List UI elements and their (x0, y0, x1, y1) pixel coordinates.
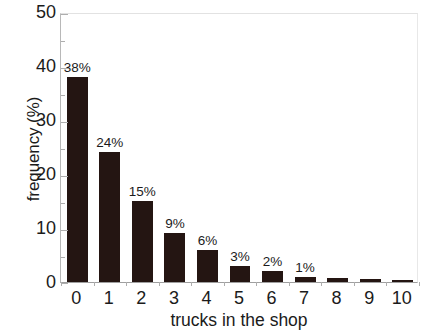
y-minor-tick-mark (61, 41, 65, 42)
y-minor-tick-mark (61, 203, 65, 204)
y-tick-label: 30 (22, 111, 56, 129)
y-tick-label: 20 (22, 165, 56, 183)
x-tick-mark (126, 282, 127, 286)
x-tick-mark (94, 282, 95, 286)
y-tick-label: 10 (22, 219, 56, 237)
x-tick-mark (289, 282, 290, 286)
x-tick-mark (321, 282, 322, 286)
bar (99, 152, 120, 282)
x-tick-label: 9 (364, 288, 374, 308)
y-minor-tick-mark (61, 95, 65, 96)
x-tick-mark (256, 282, 257, 286)
x-tick-label: 1 (104, 288, 114, 308)
y-minor-tick-mark (61, 257, 65, 258)
x-tick-label: 3 (169, 288, 179, 308)
bar-value-label: 1% (275, 261, 335, 275)
bar-value-label: 24% (80, 136, 140, 150)
y-tick-mark (61, 230, 68, 231)
x-tick-label: 5 (234, 288, 244, 308)
x-axis-title: trucks in the shop (60, 310, 418, 331)
bar-value-label: 38% (47, 61, 107, 75)
x-tick-mark (159, 282, 160, 286)
x-tick-mark (354, 282, 355, 286)
bar-value-label: 15% (112, 185, 172, 199)
x-tick-label: 7 (299, 288, 309, 308)
bar (295, 277, 316, 282)
bar (360, 279, 381, 282)
x-axis-tick-labels: 012345678910 (60, 288, 418, 312)
x-tick-label: 4 (201, 288, 211, 308)
x-tick-mark (61, 282, 62, 286)
y-tick-mark (61, 283, 68, 284)
x-tick-label: 10 (392, 288, 412, 308)
y-tick-mark (61, 14, 68, 15)
x-tick-label: 0 (71, 288, 81, 308)
y-tick-mark (61, 122, 68, 123)
bar-series: 38%24%15%9%6%3%2%1% (61, 14, 417, 282)
x-tick-mark (386, 282, 387, 286)
y-tick-mark (61, 176, 68, 177)
y-tick-mark (61, 68, 68, 69)
x-tick-label: 2 (136, 288, 146, 308)
bar (392, 280, 413, 282)
x-tick-mark (419, 282, 420, 286)
x-tick-mark (224, 282, 225, 286)
x-tick-label: 6 (267, 288, 277, 308)
chart-figure: frequency (%) 01020304050 38%24%15%9%6%3… (0, 0, 429, 333)
bar-value-label: 6% (177, 234, 237, 248)
y-axis-tick-labels: 01020304050 (16, 0, 56, 333)
x-tick-label: 8 (332, 288, 342, 308)
y-tick-label: 0 (22, 273, 56, 291)
y-tick-label: 50 (22, 3, 56, 21)
bar-value-label: 9% (145, 217, 205, 231)
bar (327, 278, 348, 282)
y-minor-tick-mark (61, 149, 65, 150)
bar (67, 77, 88, 282)
bar (132, 201, 153, 282)
plot-area: 38%24%15%9%6%3%2%1% (60, 13, 418, 283)
x-tick-mark (191, 282, 192, 286)
